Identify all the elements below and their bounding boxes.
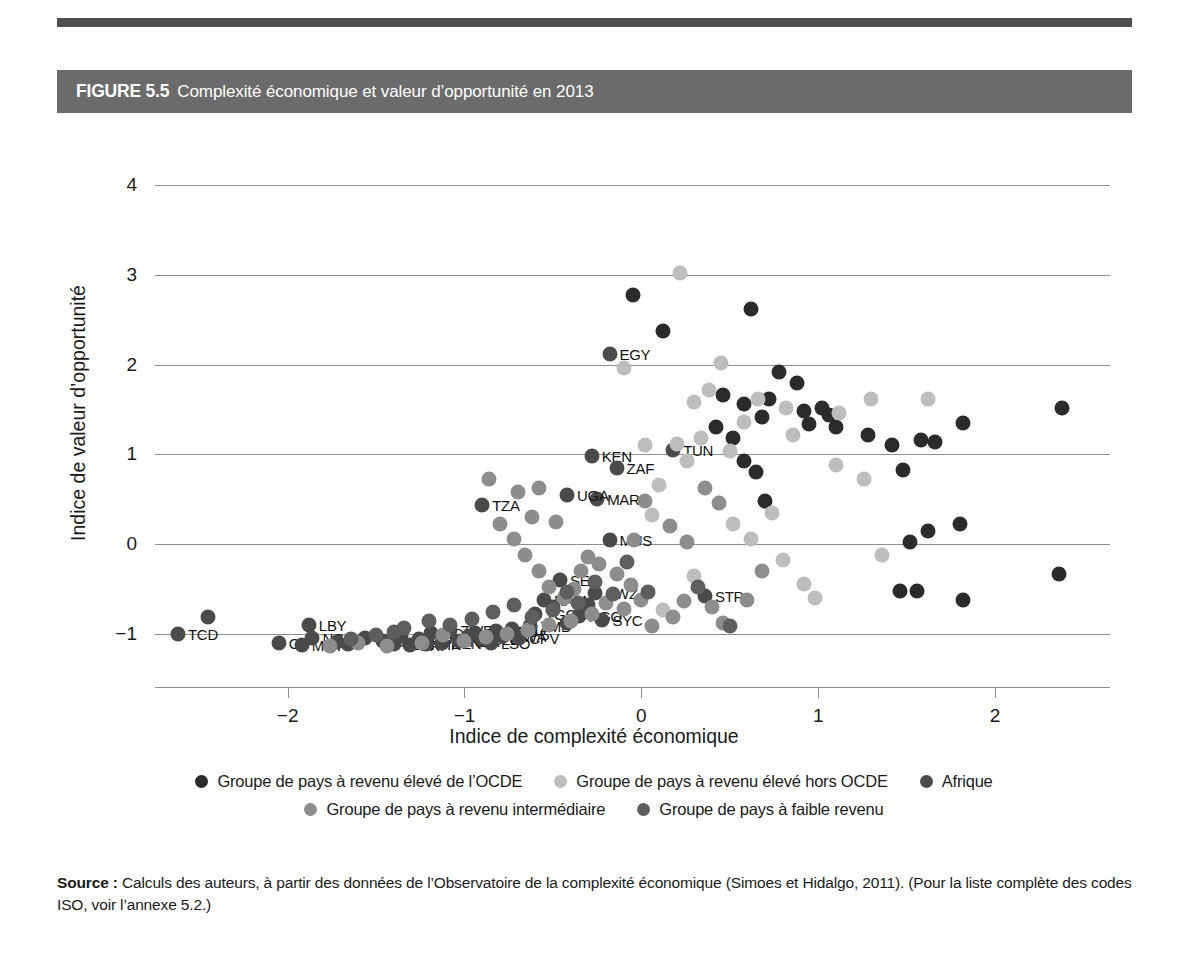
data-point [616,601,631,616]
data-point [655,323,670,338]
data-point [687,395,702,410]
data-point [323,639,338,654]
point-label: ZAF [627,459,654,476]
legend-item[interactable]: Groupe de pays à revenu élevé de l’OCDE [195,772,522,791]
data-point [910,583,925,598]
data-point [920,391,935,406]
x-tick-mark [641,687,642,698]
data-point [743,531,758,546]
data-point [772,364,787,379]
legend-item[interactable]: Afrique [920,772,993,791]
data-point [680,454,695,469]
chart-legend: Groupe de pays à revenu élevé de l’OCDEG… [0,772,1188,828]
data-point [560,487,575,502]
data-point [602,533,617,548]
data-point [802,416,817,431]
x-tick-label: −2 [277,705,299,727]
data-point [542,617,557,632]
figure-header: FIGURE 5.5 Complexité économique et vale… [57,70,1132,113]
point-label: MAR [607,491,639,508]
data-point [563,614,578,629]
data-point [736,415,751,430]
data-point [652,477,667,492]
y-tick-label: 3 [126,264,137,286]
data-point [641,585,656,600]
legend-label: Groupe de pays à revenu élevé de l’OCDE [217,772,522,791]
x-axis-line [155,687,1110,688]
data-point [524,510,539,525]
data-point [857,472,872,487]
source-note: Source : Calculs des auteurs, à partir d… [57,872,1135,917]
data-point [574,563,589,578]
data-point [775,553,790,568]
data-point [531,481,546,496]
legend-item[interactable]: Groupe de pays à faible revenu [637,800,883,819]
legend-row: Groupe de pays à revenu intermédiaireGro… [0,800,1188,819]
data-point [627,533,642,548]
data-point [478,630,493,645]
data-point [609,460,624,475]
legend-swatch-icon [195,775,208,788]
data-point [722,443,737,458]
legend-swatch-icon [304,803,317,816]
data-point [903,535,918,550]
point-label: TZA [492,497,519,514]
x-tick-mark [288,687,289,698]
y-tick-label: 4 [126,174,137,196]
data-point [927,434,942,449]
y-tick-label: 1 [126,443,137,465]
data-point [415,635,430,650]
data-point [584,449,599,464]
data-point [305,631,320,646]
data-point [443,617,458,632]
data-point [616,361,631,376]
gridline-y [155,275,1110,276]
data-point [666,610,681,625]
data-point [701,382,716,397]
gridline-y [155,365,1110,366]
legend-label: Groupe de pays à faible revenu [659,800,883,819]
y-axis-label: Indice de valeur d’opportunité [67,285,90,541]
data-point [713,355,728,370]
data-point [602,346,617,361]
data-point [740,592,755,607]
data-point [920,524,935,539]
page-top-rule [57,18,1132,27]
data-point [913,432,928,447]
legend-item[interactable]: Groupe de pays à revenu élevé hors OCDE [554,772,887,791]
data-point [786,427,801,442]
data-point [754,409,769,424]
data-point [542,580,557,595]
data-point [620,554,635,569]
plot-area: −101234−2−1012TCDGMRTLBYNGAGMBSDNERIMOZG… [155,145,1110,665]
point-label: TCD [188,625,218,642]
legend-swatch-icon [637,803,650,816]
data-point [170,626,185,641]
x-axis-label: Indice de complexité économique [0,725,1188,748]
data-point [807,590,822,605]
data-point [705,599,720,614]
data-point [588,574,603,589]
data-point [644,619,659,634]
data-point [637,438,652,453]
data-point [673,266,688,281]
x-tick-label: 0 [636,705,647,727]
data-point [669,436,684,451]
data-point [584,606,599,621]
data-point [499,626,514,641]
data-point [956,592,971,607]
legend-item[interactable]: Groupe de pays à revenu intermédiaire [304,800,605,819]
data-point [754,563,769,578]
data-point [896,463,911,478]
data-point [832,406,847,421]
scatter-chart: Indice de valeur d’opportunité −101234−2… [0,113,1188,753]
data-point [1055,400,1070,415]
legend-row: Groupe de pays à revenu élevé de l’OCDEG… [0,772,1188,791]
data-point [521,623,536,638]
source-label: Source : [57,874,118,891]
data-point [662,519,677,534]
y-tick-label: 0 [126,533,137,555]
data-point [422,614,437,629]
data-point [885,438,900,453]
point-label: STP [715,587,743,604]
